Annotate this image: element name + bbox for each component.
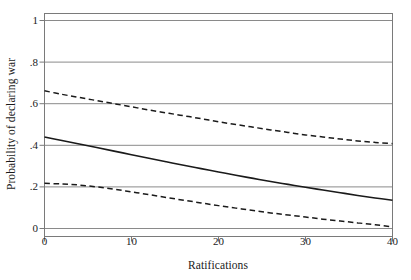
x-tick-label: 10 <box>112 236 152 247</box>
x-tick-label: 0 <box>25 236 65 247</box>
frame-box <box>45 14 393 237</box>
confidence-bound-line <box>45 91 393 144</box>
data-series <box>45 91 393 227</box>
gridlines <box>45 21 393 229</box>
x-axis-title: Ratifications <box>44 258 392 272</box>
y-axis-title: Probability of declaring war <box>2 10 20 238</box>
prediction-line <box>45 137 393 200</box>
confidence-bound-line <box>45 183 393 226</box>
plot-frame <box>45 14 393 237</box>
axis-ticks <box>40 21 393 242</box>
x-tick-label: 20 <box>199 236 239 247</box>
x-tick-label: 30 <box>286 236 326 247</box>
chart-figure: 0.2.4.6.81 010203040 Probability of decl… <box>0 0 411 280</box>
x-tick-label: 40 <box>373 236 411 247</box>
